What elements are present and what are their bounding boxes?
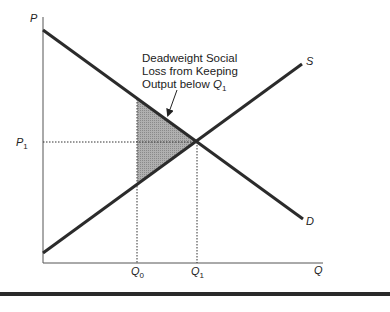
demand-label: D xyxy=(306,215,314,227)
p1-label: P1 xyxy=(16,136,28,151)
deadweight-loss-annotation: Deadweight Social Loss from Keeping Outp… xyxy=(142,52,238,93)
svg-text:Loss from Keeping: Loss from Keeping xyxy=(142,65,238,77)
q0-label: Q0 xyxy=(131,265,145,280)
x-axis-label: Q xyxy=(314,264,323,276)
supply-label: S xyxy=(306,55,314,67)
annotation-arrow xyxy=(168,90,177,115)
supply-demand-diagram: P Q S D P1 Q0 Q1 Deadweight Social Loss … xyxy=(0,0,390,312)
q1-label: Q1 xyxy=(191,265,205,280)
bottom-rule xyxy=(0,292,390,296)
y-axis-label: P xyxy=(30,12,38,24)
supply-curve xyxy=(43,64,302,253)
svg-text:Output below Q1: Output below Q1 xyxy=(142,78,227,93)
svg-text:Deadweight Social: Deadweight Social xyxy=(142,52,237,64)
